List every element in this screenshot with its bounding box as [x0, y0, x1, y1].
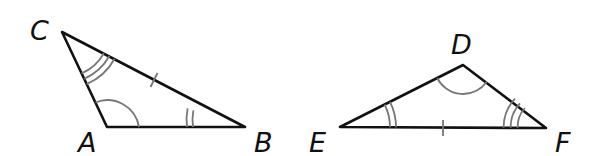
angle-e-double-arc [385, 102, 396, 128]
angle-b-double-arc [187, 108, 194, 127]
angle-d-arc [437, 78, 487, 94]
triangle-abc: C A B [30, 15, 273, 156]
triangle-def: D E F [309, 29, 571, 156]
vertex-label-e: E [309, 127, 326, 156]
vertex-label-c: C [30, 15, 49, 46]
triangle-def-sides [340, 65, 546, 128]
vertex-label-b: B [254, 127, 273, 156]
vertex-label-d: D [451, 29, 472, 60]
vertex-label-a: A [76, 127, 96, 156]
congruent-triangles-diagram: C A B D E F [0, 0, 597, 156]
vertex-label-f: F [555, 127, 571, 156]
